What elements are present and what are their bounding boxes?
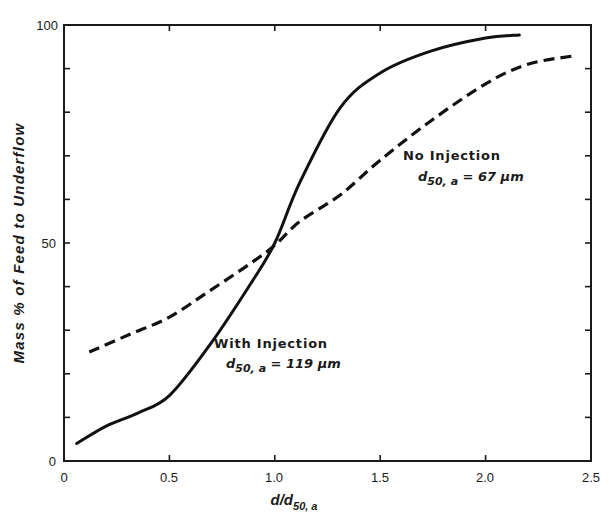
x-tick-2.0: 2.0 — [476, 470, 494, 485]
with-injection-d50: d50, a = 119 µm — [226, 356, 341, 375]
x-tick-0.5: 0.5 — [160, 470, 178, 485]
chart: 0 50 100 0 0.5 1.0 1.5 2.0 2.5 Mass % of… — [0, 0, 609, 520]
y-tick-0: 0 — [49, 454, 56, 469]
x-tick-0: 0 — [60, 470, 67, 485]
y-tick-100: 100 — [36, 18, 58, 33]
axis-ticks — [64, 25, 591, 461]
y-tick-50: 50 — [42, 236, 56, 251]
x-tick-2.5: 2.5 — [582, 470, 600, 485]
with-injection-curve — [77, 35, 520, 444]
no-injection-curve — [89, 56, 576, 352]
plot-frame — [64, 25, 591, 461]
with-injection-value: = 119 µm — [266, 356, 341, 371]
no-injection-sub: 50, a — [427, 175, 458, 188]
x-tick-1.0: 1.0 — [265, 470, 283, 485]
x-tick-1.5: 1.5 — [371, 470, 389, 485]
no-injection-label: No Injection — [403, 148, 501, 163]
no-injection-value: = 67 µm — [458, 169, 524, 184]
x-axis-title: d/d50, a — [271, 491, 318, 512]
with-injection-label: With Injection — [214, 336, 328, 351]
with-injection-sub: 50, a — [235, 362, 266, 375]
y-axis-title: Mass % of Feed to Underflow — [10, 122, 27, 363]
no-injection-d50: d50, a = 67 µm — [418, 169, 524, 188]
x-axis-title-sub: 50, a — [293, 500, 317, 512]
x-axis-title-main: d/d — [271, 491, 294, 508]
